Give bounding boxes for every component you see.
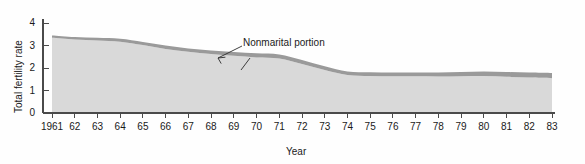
- figure-chart-total-fertility-rate: Total fertility rate 0 1 2 3 4 Nonmarita…: [0, 0, 585, 164]
- x-tick-marks: [52, 113, 552, 118]
- y-tick-marks: [43, 23, 49, 113]
- plot-canvas: [0, 0, 585, 164]
- stacked-area-group: [52, 35, 552, 113]
